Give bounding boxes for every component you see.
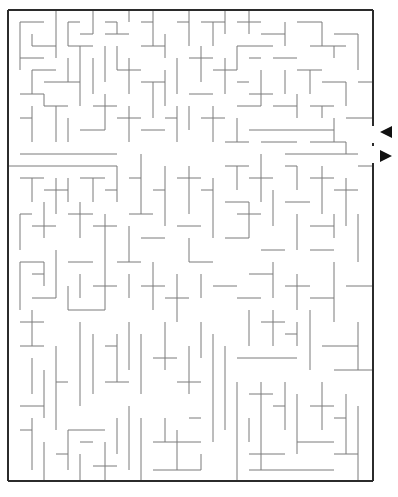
maze-border	[8, 10, 373, 481]
maze-walls	[8, 10, 373, 481]
maze-board	[0, 0, 398, 497]
entrance-arrow-icon	[380, 126, 392, 138]
exit-arrow-icon	[380, 150, 392, 162]
